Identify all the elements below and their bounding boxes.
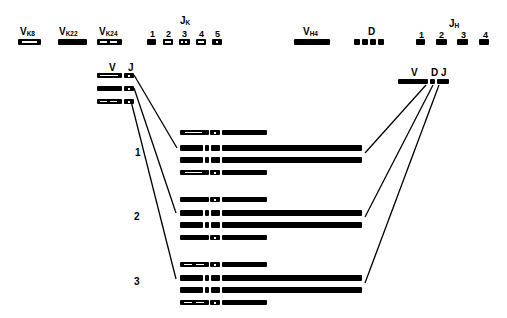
group-2-label: 2 (134, 212, 140, 222)
heavy-chain-v (180, 275, 203, 281)
group-1-label: 1 (135, 148, 141, 158)
heavy-chain-d (205, 275, 209, 281)
light-j-3 (124, 99, 134, 104)
jk3-label: 3 (182, 29, 187, 39)
jk2-label: 2 (166, 29, 171, 39)
light-chain-j (210, 130, 220, 135)
heavy-chain-c (222, 222, 362, 228)
heavy-j-label: J (441, 68, 447, 78)
light-v-1 (97, 73, 122, 78)
light-chain-v (180, 300, 209, 305)
jk1-label: 1 (150, 29, 155, 39)
vk8-label: VK8 (20, 27, 35, 38)
light-chain-v (180, 197, 209, 202)
light-chain-v (180, 235, 209, 240)
heavy-chain-c (222, 275, 362, 281)
jk1-segment (147, 39, 156, 45)
light-chain-j (210, 300, 220, 305)
heavy-chain-v (180, 222, 203, 228)
light-chain-v (180, 170, 209, 175)
group-3-label: 3 (134, 277, 140, 287)
light-chain-c (222, 197, 267, 202)
d-segment-4 (378, 39, 384, 45)
light-j-1 (124, 73, 134, 78)
heavy-chain-v (180, 210, 203, 216)
d-segment-2 (362, 39, 368, 45)
vh4-label: VH4 (303, 27, 318, 38)
light-chain-j (210, 197, 220, 202)
d-segment-3 (370, 39, 376, 45)
light-chain-j (210, 170, 220, 175)
light-1-connector (134, 75, 177, 148)
heavy-chain-d (205, 210, 209, 216)
light-3-connector (131, 101, 176, 279)
jh1-segment (416, 39, 425, 45)
light-v-3 (97, 99, 122, 104)
heavy-chain-d (205, 222, 209, 228)
heavy-d-segment (430, 79, 435, 84)
d-segment-1 (354, 39, 360, 45)
heavy-chain-j (211, 222, 220, 228)
vk24-label: VK24 (99, 27, 118, 38)
heavy-chain-c (222, 157, 362, 163)
heavy-chain-j (211, 275, 220, 281)
heavy-chain-v (180, 157, 203, 163)
jk5-label: 5 (215, 29, 220, 39)
heavy-v-label: V (411, 68, 418, 78)
jk2-segment (163, 39, 173, 45)
light-chain-j (210, 235, 220, 240)
jh-label: JH (449, 19, 459, 30)
vk8-segment (18, 39, 41, 45)
heavy-chain-j (211, 287, 220, 293)
heavy-chain-v (180, 287, 203, 293)
d-label: D (368, 27, 375, 37)
vh4-segment (294, 39, 330, 45)
heavy-j-segment (437, 79, 449, 84)
light-chain-c (222, 130, 267, 135)
heavy-chain-j (211, 210, 220, 216)
light-j-2 (124, 86, 134, 91)
light-chain-c (222, 235, 267, 240)
jk4-segment (196, 39, 206, 45)
heavy-d-label: D (431, 68, 438, 78)
light-chain-j (210, 262, 220, 267)
jh3-segment (457, 39, 468, 45)
light-chain-v (180, 130, 209, 135)
heavy-3-connector (365, 85, 439, 283)
heavy-chain-c (222, 287, 362, 293)
heavy-chain-d (205, 145, 209, 151)
light-v-label: V (109, 63, 116, 73)
heavy-chain-j (211, 157, 220, 163)
light-v-2 (97, 86, 122, 91)
heavy-chain-v (180, 145, 203, 151)
heavy-v-segment (398, 79, 428, 84)
light-chain-v (180, 262, 209, 267)
jk3-segment (179, 39, 190, 45)
heavy-chain-c (222, 210, 362, 216)
light-chain-c (222, 262, 267, 267)
heavy-chain-d (205, 287, 209, 293)
heavy-chain-d (205, 157, 209, 163)
light-j-label: J (128, 63, 134, 73)
jk4-label: 4 (199, 29, 204, 39)
vk22-label: VK22 (59, 27, 78, 38)
light-chain-c (222, 300, 267, 305)
jk5-segment (212, 39, 222, 45)
heavy-chain-j (211, 145, 220, 151)
heavy-2-connector (365, 85, 433, 217)
jh2-segment (436, 39, 447, 45)
heavy-1-connector (365, 85, 426, 153)
jh4-segment (479, 39, 489, 45)
light-chain-c (222, 170, 267, 175)
vk22-segment (58, 39, 87, 45)
vk24-segment (97, 39, 122, 45)
heavy-chain-c (222, 145, 362, 151)
jk-label: JK (180, 16, 190, 27)
